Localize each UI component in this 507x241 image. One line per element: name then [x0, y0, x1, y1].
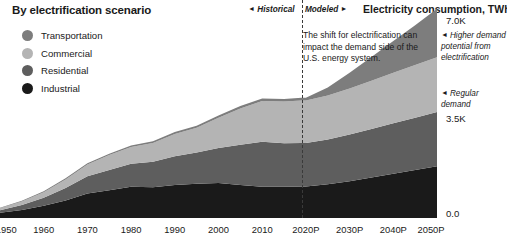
legend-item-residential[interactable]: Residential	[22, 65, 103, 76]
legend-item-transportation[interactable]: Transportation	[22, 30, 103, 41]
callout-electrification-shift: The shift for electrification can impact…	[303, 30, 421, 65]
x-axis-tick-1950: 1950	[0, 224, 17, 235]
legend-label-industrial: Industrial	[41, 83, 80, 94]
annotation-caret-higher-icon: ◄	[441, 31, 448, 38]
x-axis-tick-1980: 1980	[121, 224, 142, 235]
legend: Transportation Commercial Residential In…	[22, 30, 103, 94]
x-axis-tick-2040P: 2040P	[380, 224, 407, 235]
x-axis-tick-1970: 1970	[77, 224, 98, 235]
x-axis-tick-1960: 1960	[33, 224, 54, 235]
x-axis-tick-2010: 2010	[252, 224, 273, 235]
legend-swatch-transportation	[22, 30, 33, 41]
x-axis-tick-2030P: 2030P	[336, 224, 363, 235]
y-axis-tick-mid: 3.5K	[446, 113, 466, 124]
annotation-higher-demand-text: Higher demand potential from electrifica…	[441, 31, 506, 62]
legend-item-commercial[interactable]: Commercial	[22, 48, 103, 59]
y-axis-tick-zero: 0.0	[446, 208, 459, 219]
x-axis-tick-2020P: 2020P	[292, 224, 319, 235]
annotation-regular-demand: ◄Regular demand	[441, 88, 507, 110]
legend-swatch-commercial	[22, 48, 33, 59]
chart-panel: By electrification scenario ◄ Historical…	[0, 0, 507, 241]
legend-label-residential: Residential	[41, 65, 88, 76]
x-axis-tick-2050P: 2050P	[417, 224, 444, 235]
annotation-higher-demand: ◄Higher demand potential from electrific…	[441, 30, 507, 63]
x-axis-tick-2000: 2000	[208, 224, 229, 235]
x-axis-tick-1990: 1990	[164, 224, 185, 235]
legend-swatch-residential	[22, 65, 33, 76]
legend-item-industrial[interactable]: Industrial	[22, 83, 103, 94]
legend-label-commercial: Commercial	[41, 48, 92, 59]
legend-label-transportation: Transportation	[41, 30, 103, 41]
y-axis-tick-top: 7.0K	[446, 15, 466, 26]
x-axis: 19501960197019801990200020102020P2030P20…	[0, 224, 437, 238]
annotation-caret-regular-icon: ◄	[441, 89, 448, 96]
legend-swatch-industrial	[22, 83, 33, 94]
